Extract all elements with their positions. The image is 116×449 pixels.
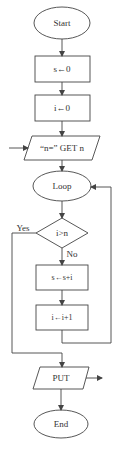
init-s-label: s←0: [53, 65, 70, 74]
init-i-label: i←0: [54, 104, 70, 113]
no-edge-label: No: [67, 250, 78, 259]
input-n-label: “n=” GET n: [40, 144, 84, 153]
end-label: End: [54, 420, 69, 429]
yes-edge-label: Yes: [16, 224, 29, 233]
edge-cond-yes-to-output: [12, 233, 62, 367]
condition-label: i>n: [56, 229, 68, 238]
output-label: PUT: [52, 374, 69, 383]
loop-label: Loop: [53, 182, 72, 191]
increment-label: i←i+1: [52, 314, 73, 322]
start-label: Start: [54, 19, 71, 28]
add-label: s←s+i: [52, 274, 73, 282]
